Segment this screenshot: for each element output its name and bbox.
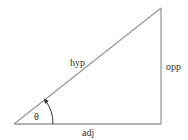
opposite-label: opp [166,61,181,72]
adjacent-label: adj [82,127,94,138]
hypotenuse-label: hyp [70,57,85,68]
right-triangle-diagram: hyp opp adj θ [0,0,188,140]
hypotenuse-line [14,8,161,124]
angle-label: θ [34,111,39,122]
angle-arc [46,101,54,125]
